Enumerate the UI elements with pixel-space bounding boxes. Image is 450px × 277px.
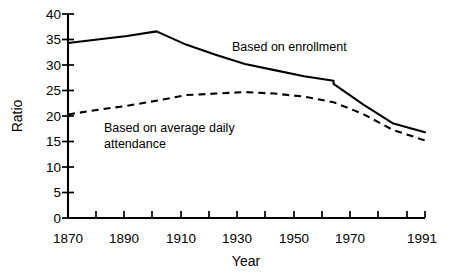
x-tick-label: 1870 xyxy=(53,231,83,246)
x-tick-label: 1910 xyxy=(166,231,196,246)
x-tick-label: 1930 xyxy=(222,231,252,246)
chart-container: Ratio 40 35 30 25 20 15 10 5 0 xyxy=(0,0,450,277)
y-tick-label: 40 xyxy=(46,7,61,22)
y-tick-label: 25 xyxy=(46,83,61,98)
annotation-enrollment: Based on enrollment xyxy=(232,40,347,54)
y-tick-label: 10 xyxy=(46,160,61,175)
x-tick-label: 1970 xyxy=(335,231,365,246)
annotation-average-daily-attendance-line1: Based on average daily xyxy=(104,121,235,135)
y-tick-label: 35 xyxy=(46,32,61,47)
y-axis-title: Ratio xyxy=(9,99,25,132)
ratio-vs-year-line-chart: Ratio 40 35 30 25 20 15 10 5 0 xyxy=(0,0,450,277)
y-tick-label: 0 xyxy=(53,211,61,226)
y-tick-label: 30 xyxy=(46,58,61,73)
y-tick-label: 20 xyxy=(46,109,61,124)
x-axis-title: Year xyxy=(232,253,261,269)
x-tick-label: 1991 xyxy=(407,231,437,246)
x-tick-label: 1950 xyxy=(279,231,309,246)
x-tick-label: 1890 xyxy=(109,231,139,246)
y-tick-label: 15 xyxy=(46,134,61,149)
annotation-average-daily-attendance-line2: attendance xyxy=(104,137,166,151)
y-tick-label: 5 xyxy=(53,185,61,200)
x-axis-tick-labels: 1870 1890 1910 1930 1950 1970 1991 xyxy=(53,231,437,246)
y-axis-tick-labels: 40 35 30 25 20 15 10 5 0 xyxy=(46,7,61,226)
